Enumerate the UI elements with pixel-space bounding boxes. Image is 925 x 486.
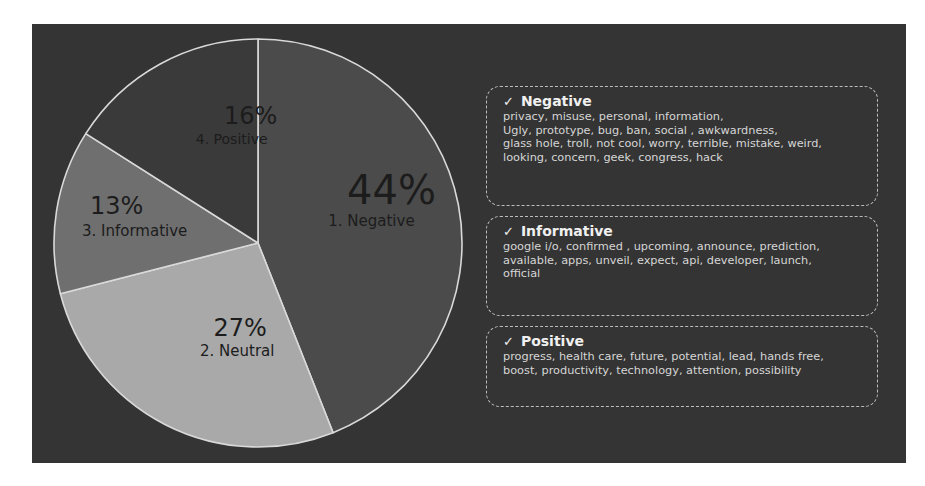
slice-name-neutral: 2. Neutral [200,344,274,359]
slice-label-negative: 44% 1. Negative [307,170,436,229]
keyword-line: glass hole, troll, not cool, worry, terr… [503,137,867,151]
slice-name-positive: 4. Positive [186,132,277,146]
keyword-line: available, apps, unveil, expect, api, de… [503,254,867,268]
slice-name-informative: 3. Informative [82,224,187,239]
keyword-list: progress, health care, future, potential… [503,350,877,377]
keyword-line: Ugly, prototype, bug, ban, social , awkw… [503,124,867,138]
checkmark-icon: ✓ [503,94,514,109]
keyword-line: looking, concern, geek, congress, hack [503,151,867,165]
keyword-line: boost, productivity, technology, attenti… [503,364,867,378]
slice-label-neutral: 27% 2. Neutral [200,316,274,359]
keyword-line: privacy, misuse, personal, information, [503,110,867,124]
slice-name-negative: 1. Negative [307,214,436,229]
chart-panel: 44% 1. Negative 27% 2. Neutral 13% 3. In… [32,24,906,463]
keyword-box-informative: ✓ Informative google i/o, confirmed , up… [486,216,878,316]
slice-label-positive: 16% 4. Positive [186,104,277,146]
keyword-box-title: ✓ Informative [503,223,877,239]
keyword-list: privacy, misuse, personal, information, … [503,110,877,164]
slice-pct-informative: 13% [90,194,187,218]
keyword-box-title: ✓ Negative [503,93,877,109]
keyword-box-title-text: Negative [521,93,592,109]
checkmark-icon: ✓ [503,224,514,239]
keyword-line: google i/o, confirmed , upcoming, announ… [503,240,867,254]
checkmark-icon: ✓ [503,334,514,349]
slice-pct-neutral: 27% [206,316,274,340]
keyword-box-negative: ✓ Negative privacy, misuse, personal, in… [486,86,878,206]
keyword-box-positive: ✓ Positive progress, health care, future… [486,326,878,407]
slice-label-informative: 13% 3. Informative [82,194,187,239]
keyword-line: progress, health care, future, potential… [503,350,867,364]
slice-pct-negative: 44% [347,170,436,210]
keyword-box-title: ✓ Positive [503,333,877,349]
keyword-line: official [503,267,867,281]
keyword-list: google i/o, confirmed , upcoming, announ… [503,240,877,281]
keyword-box-title-text: Informative [521,223,613,239]
slice-pct-positive: 16% [224,104,277,128]
keyword-box-title-text: Positive [521,333,584,349]
